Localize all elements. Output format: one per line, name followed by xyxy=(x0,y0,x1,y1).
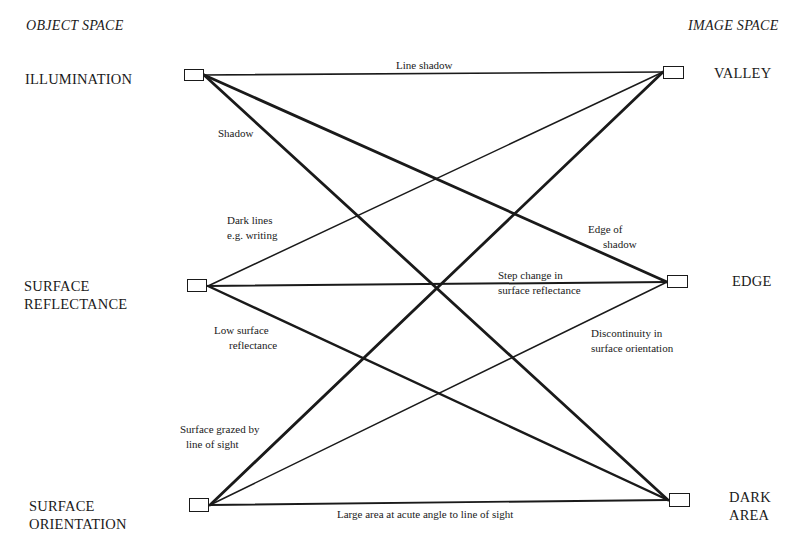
line-orientation-valley xyxy=(210,72,663,505)
label-line: VALLEY xyxy=(714,64,771,82)
label-line: DARK xyxy=(729,488,771,506)
label-line: SURFACE xyxy=(24,277,127,295)
node-label-illumination: ILLUMINATION xyxy=(25,70,132,88)
node-box-surface-reflectance xyxy=(187,279,207,292)
node-box-illumination xyxy=(184,69,204,81)
node-label-surface-orientation: SURFACE ORIENTATION xyxy=(29,497,127,533)
edge-label-discontinuity: Discontinuity in surface orientation xyxy=(591,326,673,356)
line-orientation-dark-area xyxy=(210,500,668,505)
label-line: REFLECTANCE xyxy=(24,295,127,313)
label-line: shadow xyxy=(588,237,648,252)
node-box-edge xyxy=(667,275,688,288)
edge-label-large-area: Large area at acute angle to line of sig… xyxy=(337,507,513,522)
node-box-valley xyxy=(663,66,684,79)
label-line: EDGE xyxy=(732,272,771,290)
label-line: ILLUMINATION xyxy=(25,70,132,88)
line-orientation-edge xyxy=(210,282,667,505)
label-line: Step change in xyxy=(498,268,581,283)
edge-label-dark-lines: Dark lines e.g. writing xyxy=(227,213,277,243)
edge-label-shadow: Shadow xyxy=(218,126,253,141)
label-line: Large area at acute angle to line of sig… xyxy=(337,507,513,522)
label-line: SURFACE xyxy=(29,497,127,515)
label-line: Edge of xyxy=(588,222,648,237)
label-line: ORIENTATION xyxy=(29,515,127,533)
line-reflectance-valley xyxy=(208,72,663,286)
label-line: reflectance xyxy=(214,338,277,353)
edge-label-low-surface-reflectance: Low surface reflectance xyxy=(214,323,277,353)
label-line: Low surface xyxy=(214,323,277,338)
label-line: surface orientation xyxy=(591,341,673,356)
node-label-valley: VALLEY xyxy=(714,64,771,82)
label-line: surface reflectance xyxy=(498,283,581,298)
heading-image-space: IMAGE SPACE xyxy=(688,18,779,34)
label-line: Shadow xyxy=(218,126,253,141)
label-line: AREA xyxy=(729,506,771,524)
label-line: line of sight xyxy=(180,437,259,452)
edge-label-surface-grazed: Surface grazed by line of sight xyxy=(180,422,259,452)
edge-label-edge-of-shadow: Edge of shadow xyxy=(588,222,648,252)
edge-label-step-change: Step change in surface reflectance xyxy=(498,268,581,298)
heading-object-space: OBJECT SPACE xyxy=(26,18,124,34)
line-reflectance-edge xyxy=(208,282,667,286)
label-line: Line shadow xyxy=(396,58,453,73)
node-box-dark-area xyxy=(669,493,690,507)
edge-label-line-shadow: Line shadow xyxy=(396,58,453,73)
label-line: Discontinuity in xyxy=(591,326,673,341)
node-label-edge: EDGE xyxy=(732,272,771,290)
label-line: Surface grazed by xyxy=(180,422,259,437)
object-image-space-diagram: OBJECT SPACE IMAGE SPACE ILLUMINATION SU… xyxy=(0,0,810,552)
label-line: e.g. writing xyxy=(227,228,277,243)
node-box-surface-orientation xyxy=(189,498,209,512)
node-label-surface-reflectance: SURFACE REFLECTANCE xyxy=(24,277,127,313)
node-label-dark-area: DARK AREA xyxy=(729,488,771,524)
label-line: Dark lines xyxy=(227,213,277,228)
